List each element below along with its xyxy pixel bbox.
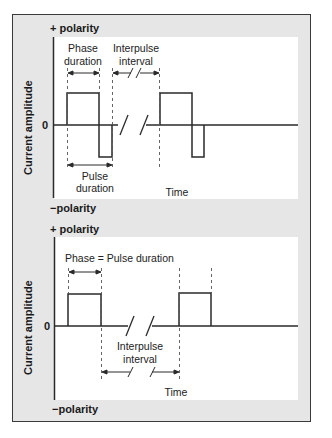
interpulse-interval-label: Interpulse xyxy=(117,340,163,352)
interpulse-interval-label: Interpulse xyxy=(113,42,159,54)
x-axis-label: Time xyxy=(166,186,189,198)
phase-duration-label: duration xyxy=(64,55,102,67)
plus-polarity-label: + polarity xyxy=(50,22,100,34)
phase-duration-label: Phase xyxy=(68,42,98,54)
pulse-duration-label: Pulse xyxy=(82,170,108,182)
zero-label: 0 xyxy=(42,119,48,131)
interpulse-interval-label: interval xyxy=(123,353,157,365)
y-axis-label: Current amplitude xyxy=(22,80,34,175)
minus-polarity-label: −polarity xyxy=(50,202,97,214)
interpulse-interval-label: interval xyxy=(119,55,153,67)
plus-polarity-label: + polarity xyxy=(50,223,100,235)
phase-pulse-duration-label: Phase = Pulse duration xyxy=(65,252,174,264)
biphasic-waveform-panel: + polarity −polarity Current amplitude 0… xyxy=(22,22,298,214)
zero-label: 0 xyxy=(44,320,50,332)
minus-polarity-label: −polarity xyxy=(52,403,99,415)
pulse-duration-label: duration xyxy=(76,182,114,194)
monophasic-waveform-panel: + polarity −polarity Current amplitude 0… xyxy=(22,223,298,415)
y-axis-label: Current amplitude xyxy=(22,280,34,375)
x-axis-label: Time xyxy=(165,386,188,398)
waveform-diagram: + polarity −polarity Current amplitude 0… xyxy=(0,0,332,438)
